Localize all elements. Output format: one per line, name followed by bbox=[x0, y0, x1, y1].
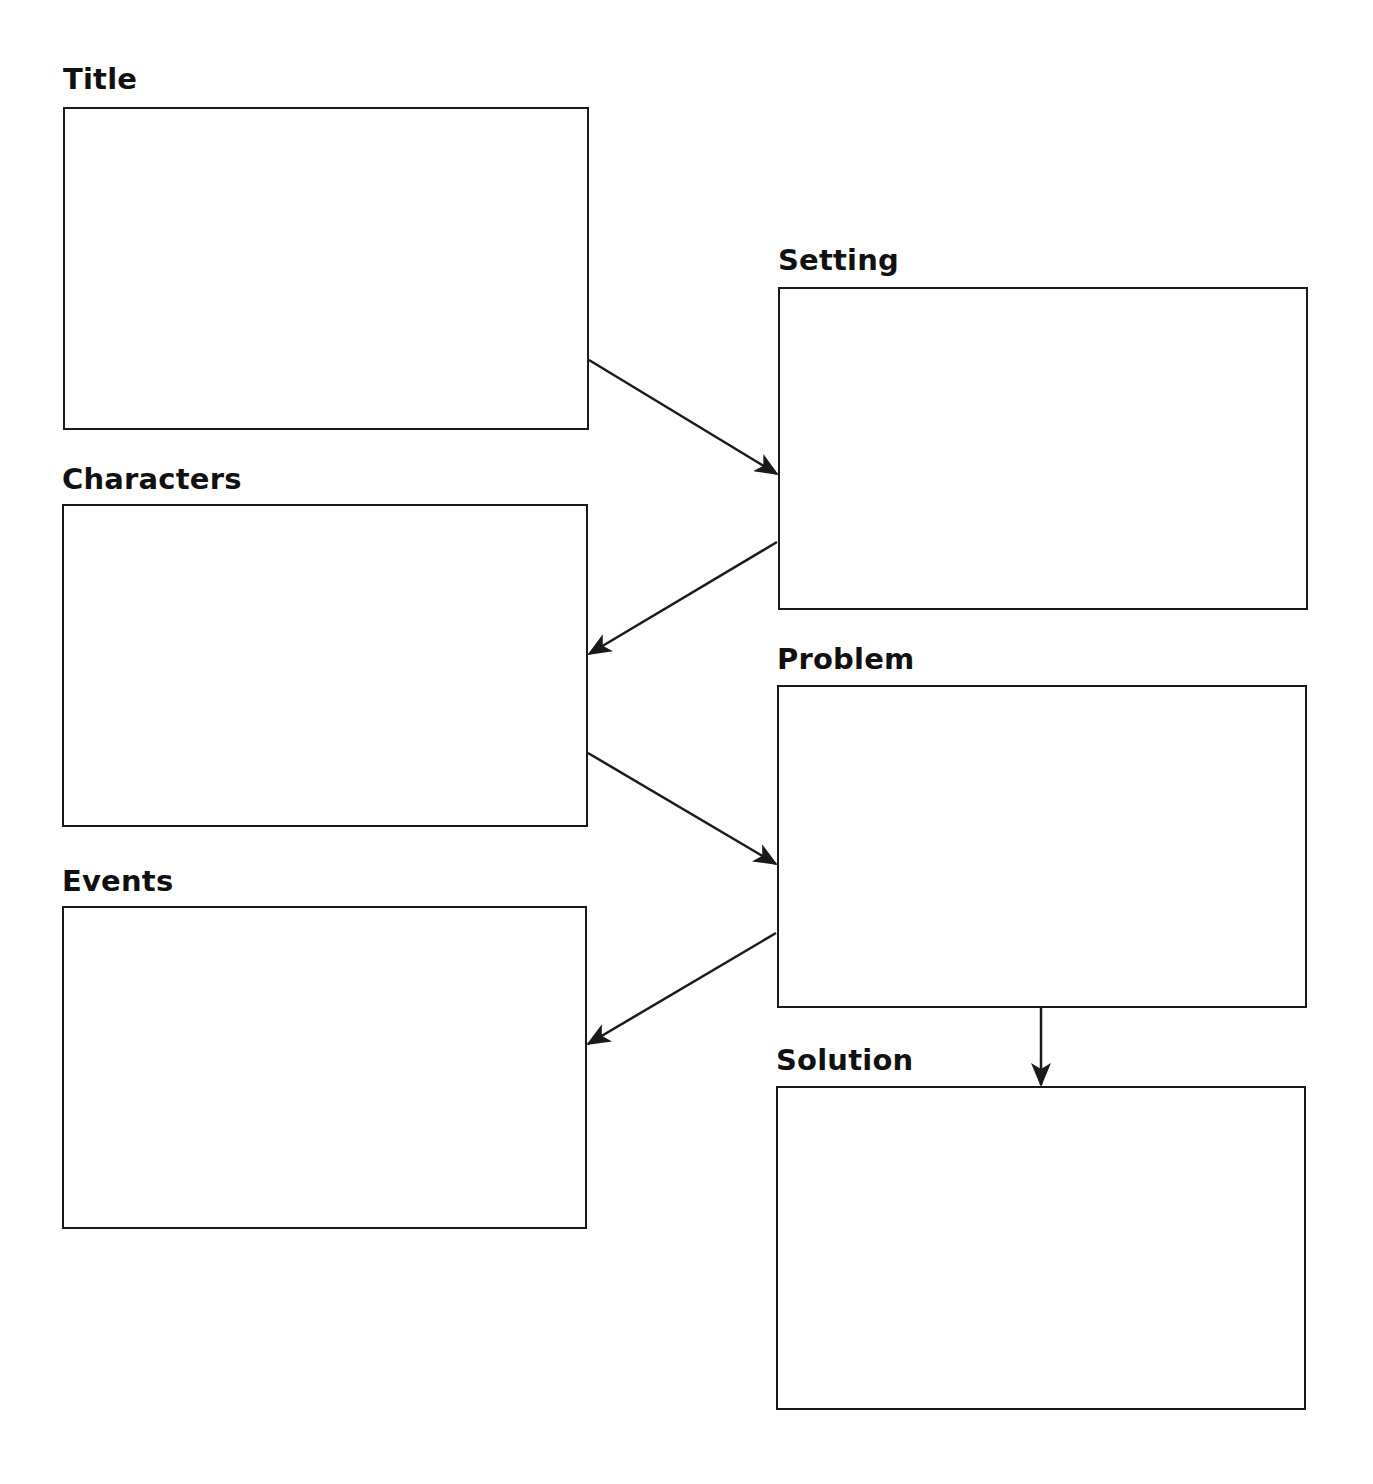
arrows-layer bbox=[0, 0, 1373, 1484]
arrow-problem-to-events bbox=[588, 933, 776, 1044]
arrow-characters-to-problem bbox=[588, 753, 776, 864]
arrow-title-to-setting bbox=[589, 360, 777, 474]
arrow-setting-to-characters bbox=[589, 542, 777, 654]
